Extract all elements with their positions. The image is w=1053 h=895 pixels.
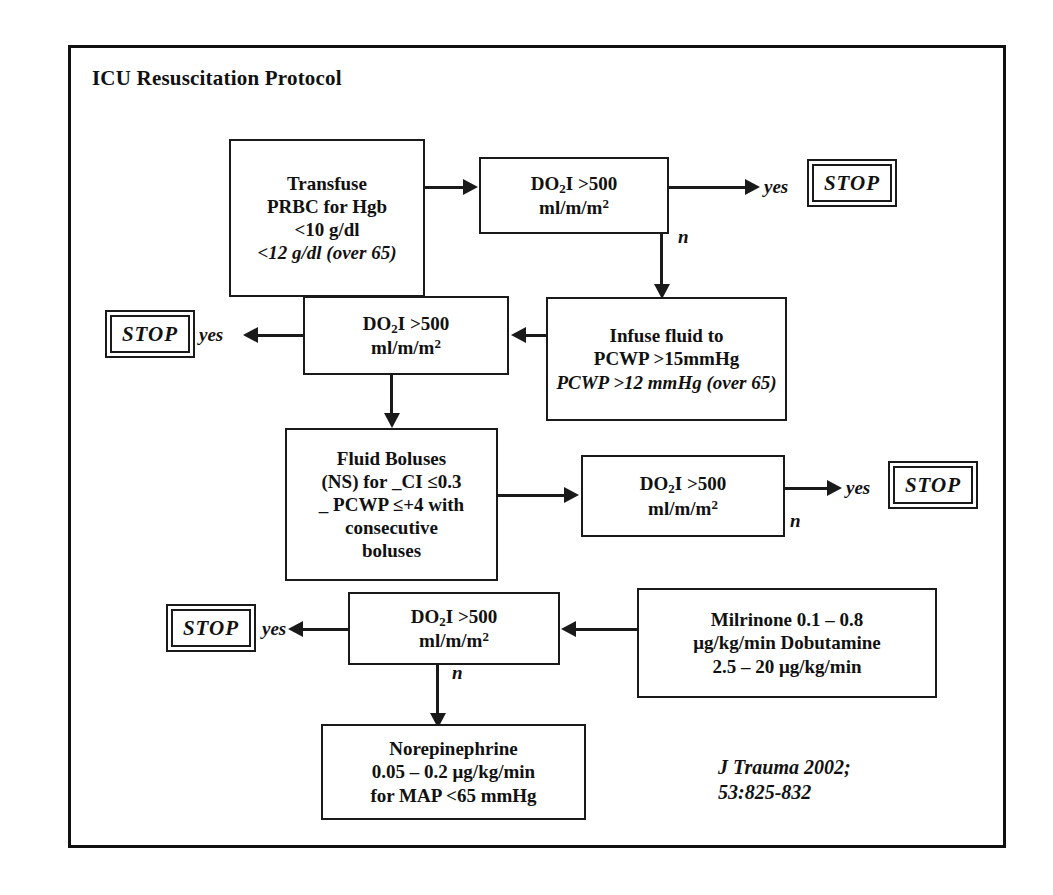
node-do2i-1-line1: DO2I >500 <box>485 172 663 197</box>
edge-do2i2-to-boluses-arrow <box>384 413 400 428</box>
node-do2i-4[interactable]: DO2I >500 ml/m/m2 <box>348 592 560 665</box>
node-fluid-boluses-line1: Fluid Boluses <box>291 447 492 470</box>
node-do2i-3-line2: ml/m/m2 <box>587 497 779 520</box>
node-do2i-3[interactable]: DO2I >500 ml/m/m2 <box>581 455 785 537</box>
node-stop-3-label: STOP <box>893 466 973 504</box>
edge-infuse-to-do2i2-arrow <box>511 327 526 343</box>
edge-do2i4-yes-arrow <box>288 621 303 637</box>
edge-do2i3-yes-line <box>785 487 827 490</box>
edge-transfuse-to-do2i1-line <box>425 186 463 189</box>
node-do2i-4-line1: DO2I >500 <box>354 605 554 630</box>
node-do2i-2-line2: ml/m/m2 <box>309 336 503 359</box>
node-transfuse[interactable]: Transfuse PRBC for Hgb <10 g/dl <12 g/dl… <box>229 139 425 297</box>
edge-boluses-to-do2i3-arrow <box>564 487 579 503</box>
node-fluid-boluses-line4: consecutive <box>291 516 492 539</box>
edge-inotropes-to-do2i4-arrow <box>561 621 576 637</box>
node-infuse-fluid[interactable]: Infuse fluid to PCWP >15mmHg PCWP >12 mm… <box>546 297 787 421</box>
node-infuse-fluid-line1: Infuse fluid to <box>552 324 781 347</box>
edge-do2i4-n-line <box>436 665 439 713</box>
node-norepinephrine-line3: for MAP <65 mmHg <box>327 784 580 807</box>
node-do2i-1[interactable]: DO2I >500 ml/m/m2 <box>479 157 669 234</box>
node-stop-4-label: STOP <box>171 609 251 647</box>
node-stop-2-label: STOP <box>110 315 190 353</box>
edge-boluses-to-do2i3-line <box>498 494 564 497</box>
edge-label-yes-4: yes <box>262 618 286 640</box>
node-transfuse-line3: <10 g/dl <box>235 218 419 241</box>
edge-inotropes-to-do2i4-line <box>576 628 637 631</box>
edge-do2i2-yes-arrow <box>243 327 258 343</box>
edge-label-yes-2: yes <box>199 324 223 346</box>
node-inotropes-line2: μg/kg/min Dobutamine <box>643 631 931 654</box>
node-inotropes-line3: 2.5 – 20 μg/kg/min <box>643 655 931 678</box>
node-stop-1[interactable]: STOP <box>807 159 897 207</box>
node-do2i-4-line2: ml/m/m2 <box>354 629 554 652</box>
node-infuse-fluid-line2: PCWP >15mmHg <box>552 347 781 370</box>
node-do2i-1-line2: ml/m/m2 <box>485 196 663 219</box>
node-stop-2[interactable]: STOP <box>105 310 195 358</box>
node-fluid-boluses[interactable]: Fluid Boluses (NS) for _CI ≤0.3 _ PCWP ≤… <box>285 428 498 581</box>
node-fluid-boluses-line2: (NS) for _CI ≤0.3 <box>291 470 492 493</box>
node-stop-3[interactable]: STOP <box>888 461 978 509</box>
node-norepinephrine-line1: Norepinephrine <box>327 737 580 760</box>
node-fluid-boluses-line5: boluses <box>291 539 492 562</box>
edge-transfuse-to-do2i1-arrow <box>463 179 478 195</box>
node-infuse-fluid-line3: PCWP >12 mmHg (over 65) <box>552 371 781 394</box>
node-fluid-boluses-line3: _ PCWP ≤+4 with <box>291 493 492 516</box>
flowchart-page: ICU Resuscitation Protocol Transfuse PRB… <box>0 0 1053 895</box>
node-inotropes[interactable]: Milrinone 0.1 – 0.8 μg/kg/min Dobutamine… <box>637 588 937 698</box>
edge-label-n-1: n <box>678 226 689 248</box>
node-transfuse-line4: <12 g/dl (over 65) <box>235 241 419 264</box>
edge-do2i4-yes-line <box>303 628 348 631</box>
edge-do2i3-yes-arrow <box>827 480 842 496</box>
edge-do2i2-yes-line <box>258 334 303 337</box>
node-norepinephrine-line2: 0.05 – 0.2 μg/kg/min <box>327 760 580 783</box>
node-do2i-3-line1: DO2I >500 <box>587 472 779 497</box>
page-title: ICU Resuscitation Protocol <box>92 66 342 91</box>
edge-infuse-to-do2i2-line <box>526 334 546 337</box>
node-stop-4[interactable]: STOP <box>166 604 256 652</box>
node-transfuse-line2: PRBC for Hgb <box>235 195 419 218</box>
node-inotropes-line1: Milrinone 0.1 – 0.8 <box>643 608 931 631</box>
edge-label-n-4: n <box>452 662 463 684</box>
node-transfuse-line1: Transfuse <box>235 172 419 195</box>
edge-do2i2-to-boluses-line <box>390 375 393 413</box>
edge-label-n-3: n <box>790 510 801 532</box>
citation: J Trauma 2002; 53:825-832 <box>718 755 851 805</box>
edge-do2i1-yes-arrow <box>745 179 760 195</box>
edge-label-yes-1: yes <box>764 176 788 198</box>
edge-do2i1-yes-line <box>669 186 745 189</box>
node-do2i-2-line1: DO2I >500 <box>309 312 503 337</box>
node-stop-1-label: STOP <box>812 164 892 202</box>
node-norepinephrine[interactable]: Norepinephrine 0.05 – 0.2 μg/kg/min for … <box>321 724 586 820</box>
node-do2i-2[interactable]: DO2I >500 ml/m/m2 <box>303 296 509 375</box>
edge-do2i1-n-line <box>660 234 663 284</box>
edge-label-yes-3: yes <box>846 477 870 499</box>
